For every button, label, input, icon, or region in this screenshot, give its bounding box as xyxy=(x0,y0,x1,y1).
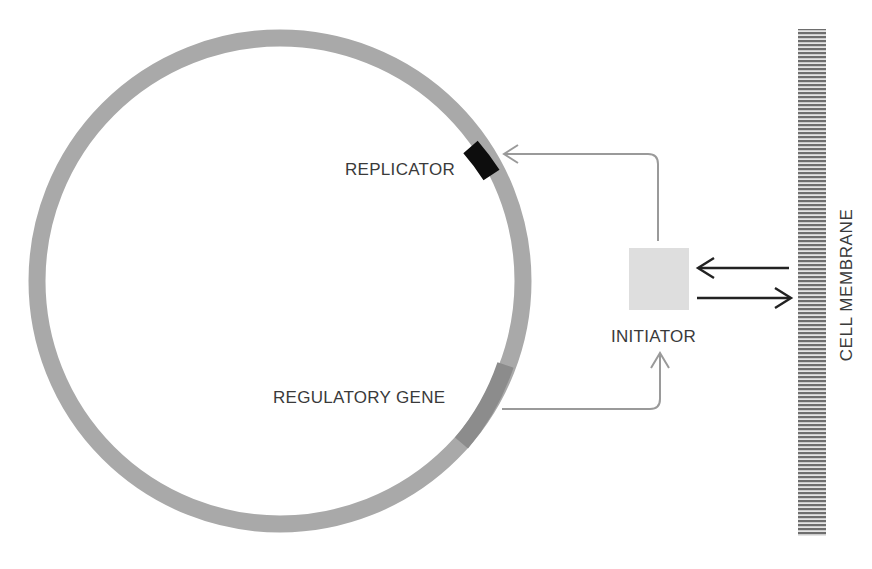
regulatory-to-initiator-arrow xyxy=(502,354,660,409)
cell-membrane xyxy=(798,29,826,536)
regulatory-gene-label: REGULATORY GENE xyxy=(273,389,445,406)
initiator-to-replicator-arrow xyxy=(505,154,658,241)
initiator-box xyxy=(629,248,689,310)
replicator-label: REPLICATOR xyxy=(345,161,455,178)
initiator-label: INITIATOR xyxy=(611,328,696,345)
chromosome-ring xyxy=(37,38,523,524)
cell-membrane-label: CELL MEMBRANE xyxy=(838,209,855,362)
replication-diagram xyxy=(0,0,872,569)
